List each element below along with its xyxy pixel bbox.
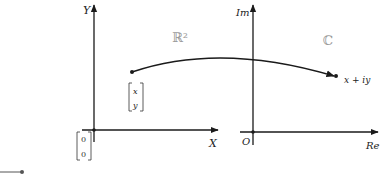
complex-point-label: x + iy bbox=[344, 75, 371, 85]
origin-top: 0 bbox=[81, 135, 86, 144]
diagram-canvas: Y X ℝ² x y 0 0 Im Re O ℂ x + iy bbox=[0, 0, 382, 176]
vector-y: y bbox=[132, 101, 138, 110]
c-origin-dot bbox=[251, 130, 255, 134]
y-axis-label: Y bbox=[83, 4, 92, 17]
origin-vector: 0 0 bbox=[77, 132, 91, 160]
r2-origin-dot bbox=[92, 128, 96, 132]
start-point-dot bbox=[130, 70, 134, 74]
im-axis-label: Im bbox=[235, 7, 249, 18]
x-axis-label: X bbox=[208, 137, 218, 150]
vector-x: x bbox=[133, 87, 138, 96]
c-panel: Im Re O ℂ x + iy bbox=[235, 5, 380, 151]
re-axis-label: Re bbox=[365, 140, 380, 151]
end-point-dot bbox=[334, 74, 338, 78]
stray-segment bbox=[0, 170, 24, 174]
origin-label: O bbox=[242, 136, 250, 147]
mapping-arrow bbox=[130, 58, 338, 78]
r2-panel: Y X ℝ² x y 0 0 bbox=[77, 4, 218, 160]
r2-space-label: ℝ² bbox=[172, 30, 188, 45]
origin-bottom: 0 bbox=[81, 150, 86, 159]
c-space-label: ℂ bbox=[323, 33, 333, 48]
point-vector: x y bbox=[129, 83, 143, 111]
